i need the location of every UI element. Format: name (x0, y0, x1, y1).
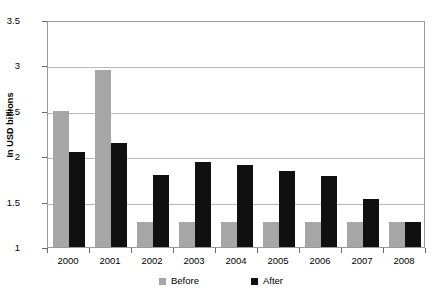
bar-group (300, 22, 342, 247)
legend-swatch-icon-before (159, 278, 166, 285)
legend-label-after: After (263, 276, 283, 286)
x-tick-label-2007: 2007 (351, 255, 372, 266)
x-tick-mark (299, 248, 300, 253)
x-tick-label-2004: 2004 (225, 255, 246, 266)
bar-group (90, 22, 132, 247)
x-tick-mark (131, 248, 132, 253)
x-tick-label-2008: 2008 (393, 255, 414, 266)
plot-area (47, 21, 425, 248)
bar-before-2003 (179, 222, 195, 247)
bar-before-2001 (95, 70, 111, 247)
y-axis-title-label: In USD billions (4, 92, 14, 157)
chart-legend: BeforeAfter (0, 276, 442, 286)
legend-entry-after[interactable]: After (251, 276, 283, 286)
bar-before-2000 (53, 111, 69, 247)
bar-before-2004 (221, 222, 237, 247)
bar-after-2003 (195, 162, 211, 247)
x-tick-mark (425, 248, 426, 253)
legend-swatch-icon-after (251, 278, 258, 285)
bar-group (258, 22, 300, 247)
x-tick-mark (341, 248, 342, 253)
x-tick-mark (215, 248, 216, 253)
y-tick-label: 3 (0, 62, 20, 72)
x-tick-mark (257, 248, 258, 253)
x-tick-mark (173, 248, 174, 253)
x-tick-label-2001: 2001 (99, 255, 120, 266)
y-tick-label: 2.5 (0, 107, 20, 117)
bar-group (48, 22, 90, 247)
bar-before-2006 (305, 222, 321, 247)
y-axis-title: In USD billions (0, 0, 18, 250)
bar-before-2005 (263, 222, 279, 247)
bar-before-2002 (137, 222, 153, 247)
x-tick-mark (383, 248, 384, 253)
x-tick-label-2002: 2002 (141, 255, 162, 266)
x-tick-mark (89, 248, 90, 253)
bar-before-2007 (347, 222, 363, 247)
bar-group (132, 22, 174, 247)
bar-after-2000 (69, 152, 85, 247)
bar-after-2002 (153, 175, 169, 247)
y-tick-label: 2 (0, 152, 20, 162)
x-tick-label-2006: 2006 (309, 255, 330, 266)
bar-after-2005 (279, 171, 295, 247)
legend-entry-before[interactable]: Before (159, 276, 199, 286)
x-tick-mark (47, 248, 48, 253)
bar-group (384, 22, 426, 247)
x-tick-label-2003: 2003 (183, 255, 204, 266)
bar-after-2007 (363, 199, 379, 247)
bar-after-2008 (405, 222, 421, 247)
y-tick-label: 1.5 (0, 198, 20, 208)
y-tick-label: 1 (0, 243, 20, 253)
bar-group (174, 22, 216, 247)
bar-after-2004 (237, 165, 253, 247)
bar-chart: In USD billions 11.522.533.5 20002001200… (0, 0, 442, 304)
y-tick-label: 3.5 (0, 16, 20, 26)
bar-group (216, 22, 258, 247)
bar-before-2008 (389, 222, 405, 247)
x-tick-label-2005: 2005 (267, 255, 288, 266)
bar-after-2006 (321, 176, 337, 247)
legend-label-before: Before (171, 276, 199, 286)
x-tick-label-2000: 2000 (57, 255, 78, 266)
bar-after-2001 (111, 143, 127, 247)
bar-group (342, 22, 384, 247)
